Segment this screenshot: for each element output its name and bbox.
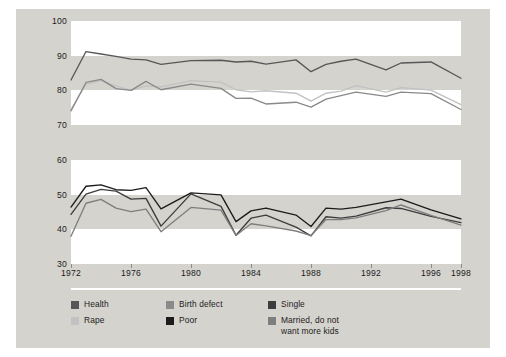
y-tick-label: 70 (27, 120, 67, 130)
legend-item[interactable]: Birth defect (166, 299, 223, 312)
legend-swatch-icon (71, 301, 79, 309)
legend-item[interactable]: Poor (166, 315, 223, 328)
chart-figure: Percentage Giving a Pro-Choice Response … (16, 9, 490, 348)
y-tick-label: 60 (27, 155, 67, 165)
legend-swatch-icon (166, 317, 174, 325)
legend-column: HealthRape (71, 299, 109, 331)
legend-swatch-icon (268, 317, 276, 325)
data-lines (71, 21, 461, 264)
legend-swatch-icon (268, 301, 276, 309)
x-tick-label: 1984 (241, 268, 261, 278)
legend-separator (71, 288, 461, 290)
legend-label: Poor (179, 315, 197, 326)
x-tick-label: 1980 (181, 268, 201, 278)
legend-column: Birth defectPoor (166, 299, 223, 331)
x-tick-label: 1972 (61, 268, 81, 278)
legend-label: Rape (84, 315, 104, 326)
y-tick-label: 80 (27, 85, 67, 95)
legend-swatch-icon (71, 317, 79, 325)
series-line (71, 81, 461, 110)
legend-label: Health (84, 299, 109, 310)
legend-item[interactable]: Rape (71, 315, 109, 328)
x-tick-label: 1976 (121, 268, 141, 278)
legend-swatch-icon (166, 301, 174, 309)
legend-label: Birth defect (179, 299, 223, 310)
y-tick-label: 100 (27, 16, 67, 26)
legend-item[interactable]: Single (268, 299, 339, 312)
series-line (71, 199, 461, 236)
series-line (71, 79, 461, 111)
y-tick-label: 40 (27, 224, 67, 234)
x-tick-label: 1996 (421, 268, 441, 278)
legend-column: SingleMarried, do not want more kids (268, 299, 339, 331)
series-line (71, 52, 461, 80)
x-tick-label: 1992 (361, 268, 381, 278)
y-tick-label: 90 (27, 51, 67, 61)
legend-item[interactable]: Health (71, 299, 109, 312)
legend-label: Married, do not want more kids (281, 315, 339, 336)
y-tick-label: 50 (27, 190, 67, 200)
series-line (71, 189, 461, 236)
plot-area: 30405060708090100 1972197619801984198819… (71, 21, 461, 264)
legend-item[interactable]: Married, do not want more kids (268, 315, 339, 328)
x-tick-label: 1988 (301, 268, 321, 278)
legend-label: Single (281, 299, 305, 310)
x-tick-label: 1998 (451, 268, 471, 278)
